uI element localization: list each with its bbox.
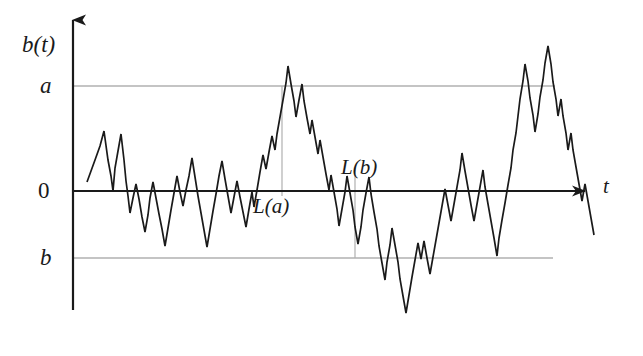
plot-canvas (0, 0, 643, 356)
random-walk-figure: b(t) a 0 b t L(a) L(b) (0, 0, 643, 356)
axis-group (73, 20, 585, 310)
level-label-b: b (40, 246, 52, 269)
crossing-label-la: L(a) (253, 196, 289, 217)
level-label-zero: 0 (38, 179, 50, 202)
crossing-label-lb: L(b) (341, 157, 377, 178)
x-axis-label: t (603, 176, 609, 197)
y-axis-label: b(t) (22, 33, 55, 56)
level-label-a: a (40, 74, 52, 97)
